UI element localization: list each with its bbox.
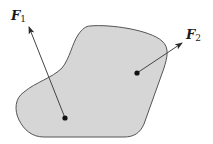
force-f2-label: F2: [186, 28, 201, 43]
force-f2-subscript: 2: [195, 33, 201, 43]
force-f1-subscript: 1: [20, 14, 26, 24]
force-f1-point: [62, 115, 67, 120]
diagram-canvas: [0, 0, 213, 144]
force-f1-label: F1: [11, 9, 26, 24]
force-f2-name: F: [186, 27, 195, 42]
rigid-body-shape: [16, 26, 167, 137]
force-f2-point: [134, 70, 139, 75]
force-f1-name: F: [11, 8, 20, 23]
